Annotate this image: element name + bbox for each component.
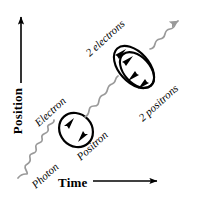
positron-arrowhead-inner (128, 71, 139, 81)
feynman-diagram: Position Time Electron Positron Photon 2… (0, 0, 200, 197)
outgoing-photon-wave (150, 21, 178, 49)
positron-arrowhead (78, 131, 88, 142)
electron-arrowhead-inner (122, 56, 133, 66)
electron-arrowhead (64, 118, 74, 129)
time-axis-label: Time (58, 175, 87, 191)
middle-photon-wave (85, 76, 118, 117)
position-axis-label: Position (10, 76, 26, 146)
